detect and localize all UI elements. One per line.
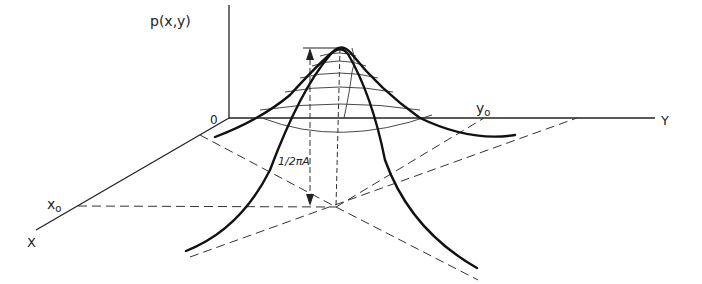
y0-label: yo [476, 100, 490, 118]
x-axis-label: X [27, 235, 36, 250]
x-direction-line-ext [336, 207, 478, 280]
up-arrow-icon [306, 48, 314, 60]
x-direction-line [200, 135, 336, 207]
surface-diagram: p(x,y) 0 Y X xo yo 1/2πA [0, 0, 702, 284]
y-axis-label: Y [660, 113, 669, 128]
origin-label: 0 [210, 113, 218, 127]
peak-vertical-line [336, 48, 340, 207]
down-arrow-icon [306, 194, 314, 206]
peak-height-label: 1/2πA [278, 155, 310, 168]
p-axis-label: p(x,y) [150, 13, 191, 29]
contour-arc-5 [260, 104, 420, 110]
x0-label: xo [47, 196, 61, 214]
x0-projection-line [78, 206, 336, 207]
y-direction-line [190, 118, 577, 257]
x-axis [36, 118, 229, 230]
meridian-1 [344, 48, 354, 118]
